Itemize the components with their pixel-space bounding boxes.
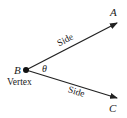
ray-ba bbox=[26, 23, 117, 70]
angle-theta: θ bbox=[42, 63, 47, 74]
ray-end-label-c: C bbox=[109, 102, 117, 114]
vertex-label: B bbox=[14, 64, 21, 76]
vertex-point bbox=[23, 67, 29, 73]
angle-diagram: B Vertex θ A C Side Side bbox=[0, 0, 127, 118]
side-label-lower: Side bbox=[67, 84, 86, 99]
vertex-caption: Vertex bbox=[7, 77, 32, 87]
ray-end-label-a: A bbox=[109, 6, 117, 18]
